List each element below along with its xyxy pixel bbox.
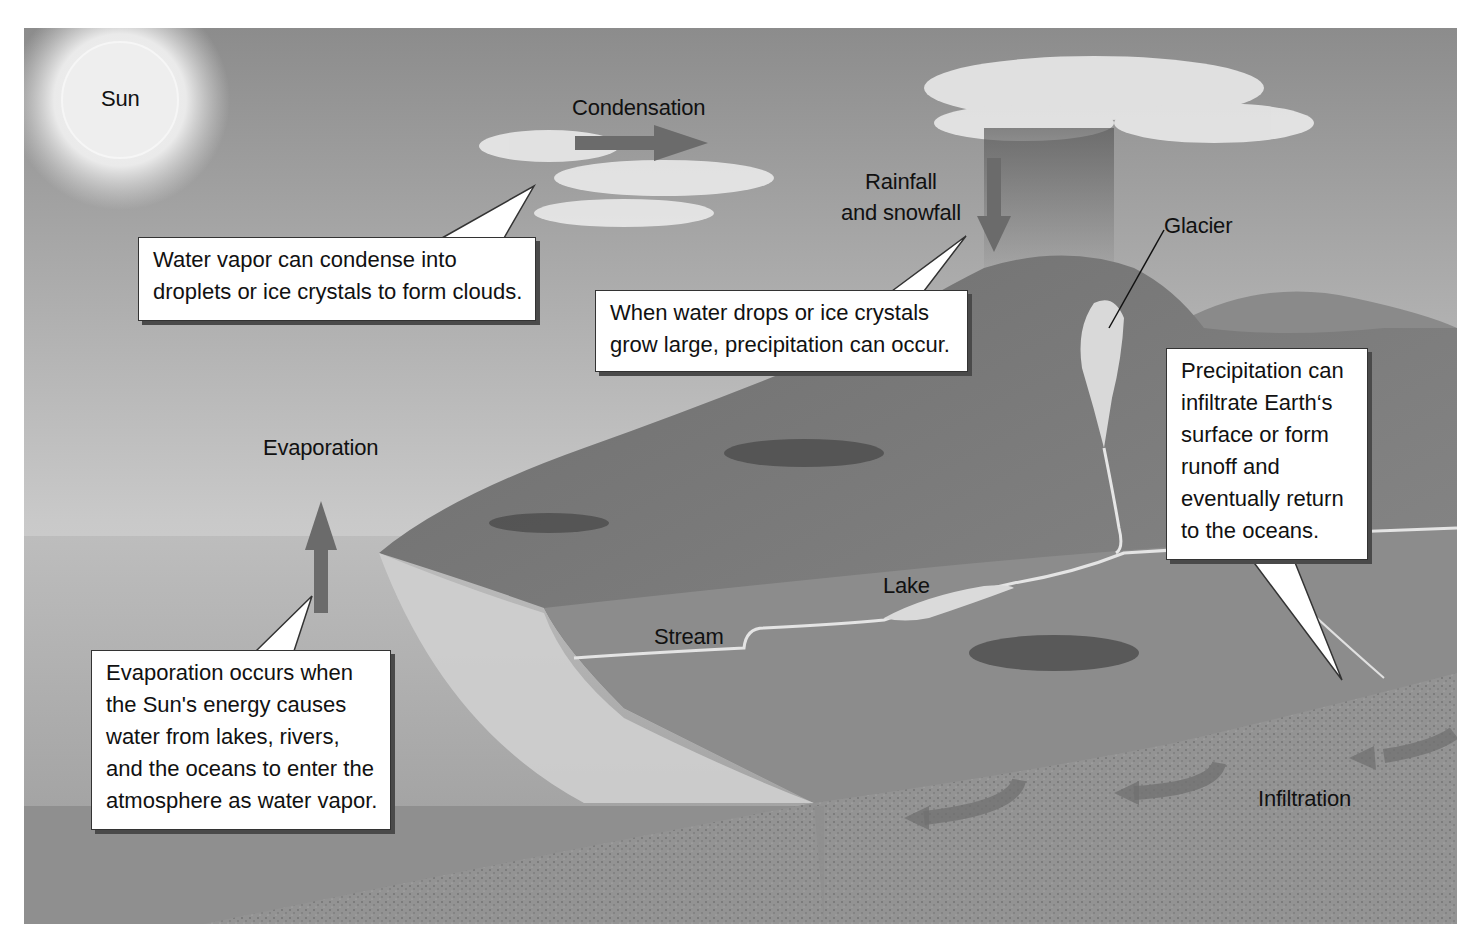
callout-runoff-line: to the oceans.	[1181, 515, 1353, 547]
callout-runoff-line: runoff and	[1181, 451, 1353, 483]
evaporation-label: Evaporation	[263, 435, 378, 461]
callout-precipitation-line: grow large, precipitation can occur.	[610, 329, 953, 361]
callout-condensation-line: Water vapor can condense into	[153, 244, 521, 276]
lake-label: Lake	[883, 573, 930, 599]
callout-precipitation: When water drops or ice crystals grow la…	[595, 290, 968, 372]
callout-runoff-line: Precipitation can	[1181, 355, 1353, 387]
sun-label: Sun	[101, 86, 140, 112]
callout-runoff-line: surface or form	[1181, 419, 1353, 451]
condensation-label: Condensation	[572, 95, 705, 121]
callout-runoff: Precipitation can infiltrate Earth‘s sur…	[1166, 348, 1368, 560]
callout-evaporation-line: Evaporation occurs when	[106, 657, 376, 689]
water-cycle-diagram: Sun Condensation Rainfall and snowfall G…	[24, 28, 1457, 924]
callout-condensation-line: droplets or ice crystals to form clouds.	[153, 276, 521, 308]
callout-runoff-line: infiltrate Earth‘s	[1181, 387, 1353, 419]
callout-evaporation-line: and the oceans to enter the	[106, 753, 376, 785]
infiltration-label: Infiltration	[1258, 786, 1351, 812]
callout-precipitation-line: When water drops or ice crystals	[610, 297, 953, 329]
callout-evaporation-line: the Sun's energy causes	[106, 689, 376, 721]
callout-evaporation-line: atmosphere as water vapor.	[106, 785, 376, 817]
callout-condensation: Water vapor can condense into droplets o…	[138, 237, 536, 321]
rainfall-label-line1: Rainfall	[865, 169, 937, 195]
glacier-label: Glacier	[1164, 213, 1232, 239]
callout-runoff-line: eventually return	[1181, 483, 1353, 515]
stream-label: Stream	[654, 624, 724, 650]
callout-evaporation: Evaporation occurs when the Sun's energy…	[91, 650, 391, 830]
rainfall-label-line2: and snowfall	[841, 200, 961, 226]
callout-evaporation-line: water from lakes, rivers,	[106, 721, 376, 753]
